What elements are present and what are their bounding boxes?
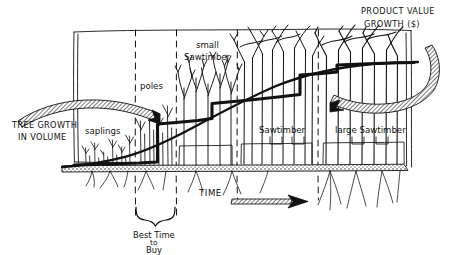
forest-growth-diagram: TREE GROWTH IN VOLUME PRODUCT VALUE GROW… [0,0,451,255]
label-stage-small-sawtimber-line2: Sawtimber [184,52,231,62]
label-stage-sawtimber: Sawtimber [259,125,306,135]
time-arrow [231,195,308,208]
label-stage-poles: poles [140,81,163,91]
label-tree-growth-line2: IN VOLUME [18,132,67,142]
label-time-axis: TIME [198,188,222,198]
diagram-canvas: TREE GROWTH IN VOLUME PRODUCT VALUE GROW… [0,0,451,255]
label-stage-large-sawtimber: large Sawtimber [335,125,406,135]
plot-frame [74,29,412,167]
stage-ground-outlines [179,142,404,165]
best-time-bracket [136,207,175,226]
label-best-time-line3: Buy [146,245,162,255]
label-stage-saplings: saplings [85,126,121,136]
text-labels: TREE GROWTH IN VOLUME PRODUCT VALUE GROW… [11,6,435,255]
label-product-value-line1: PRODUCT VALUE [361,6,435,16]
label-product-value-line2: GROWTH ($) [364,19,420,29]
label-stage-small-sawtimber-line1: small [196,40,219,50]
tree-growth-volume-curve [62,62,418,167]
product-value-banner-arrow [330,45,439,113]
label-tree-growth-line1: TREE GROWTH [11,120,77,130]
